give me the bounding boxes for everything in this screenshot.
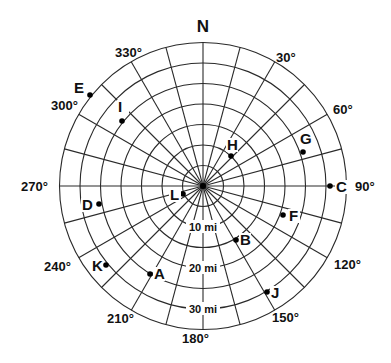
bearing-spoke bbox=[203, 149, 342, 186]
point-dot bbox=[280, 212, 286, 218]
point-g: G bbox=[299, 130, 312, 155]
point-dot bbox=[180, 191, 186, 197]
point-a: A bbox=[147, 265, 165, 282]
distance-label: 20 mi bbox=[189, 262, 217, 274]
bearing-spoke bbox=[64, 149, 203, 186]
point-k: K bbox=[91, 257, 109, 274]
point-h: H bbox=[226, 136, 238, 159]
point-dot bbox=[147, 271, 153, 277]
point-i: I bbox=[117, 98, 129, 124]
degree-label: 120° bbox=[334, 257, 361, 272]
point-dot bbox=[96, 201, 102, 207]
degree-label: 150° bbox=[272, 310, 299, 325]
point-e: E bbox=[73, 79, 93, 98]
point-c: C bbox=[327, 178, 347, 195]
point-label: L bbox=[170, 186, 179, 203]
point-dot bbox=[119, 118, 125, 124]
polar-coordinate-grid: 10 mi20 mi30 mi 30°60°90°120°150°180°210… bbox=[0, 0, 391, 363]
point-dot bbox=[87, 92, 93, 98]
point-f: F bbox=[280, 207, 300, 224]
bearing-spoke bbox=[166, 47, 203, 186]
point-dot bbox=[103, 262, 109, 268]
point-label: H bbox=[227, 136, 238, 153]
point-dot bbox=[327, 183, 333, 189]
point-b: B bbox=[233, 231, 251, 248]
point-label: G bbox=[300, 130, 312, 147]
point-label: B bbox=[240, 231, 251, 248]
bearing-spoke bbox=[102, 85, 204, 187]
degree-label: 30° bbox=[276, 50, 296, 65]
point-label: K bbox=[92, 257, 103, 274]
point-j: J bbox=[264, 284, 282, 301]
point-dot bbox=[233, 237, 239, 243]
center-point bbox=[200, 183, 206, 189]
north-label: N bbox=[197, 17, 209, 36]
degree-label: 180° bbox=[182, 331, 209, 346]
point-dot bbox=[300, 149, 306, 155]
point-label: I bbox=[118, 98, 122, 115]
bearing-spoke bbox=[203, 85, 305, 187]
point-label: C bbox=[336, 178, 347, 195]
degree-label: 90° bbox=[355, 179, 375, 194]
point-dot bbox=[264, 289, 270, 295]
bearing-spoke bbox=[131, 186, 203, 310]
degree-label: 60° bbox=[333, 102, 353, 117]
point-label: J bbox=[271, 284, 279, 301]
bearing-spoke bbox=[203, 114, 327, 186]
degree-label: 240° bbox=[44, 259, 71, 274]
point-label: E bbox=[74, 79, 84, 96]
point-l: L bbox=[169, 186, 186, 203]
point-dot bbox=[228, 153, 234, 159]
degree-label: 330° bbox=[115, 45, 142, 60]
distance-label: 10 mi bbox=[189, 221, 217, 233]
point-d: D bbox=[81, 196, 102, 213]
distance-label: 30 mi bbox=[189, 303, 217, 315]
degree-label: 210° bbox=[107, 311, 134, 326]
point-label: F bbox=[289, 207, 298, 224]
bearing-spoke bbox=[203, 186, 342, 223]
degree-label: 270° bbox=[21, 179, 48, 194]
point-label: D bbox=[82, 196, 93, 213]
degree-label: 300° bbox=[51, 98, 78, 113]
bearing-spoke bbox=[203, 47, 240, 186]
point-label: A bbox=[154, 265, 165, 282]
